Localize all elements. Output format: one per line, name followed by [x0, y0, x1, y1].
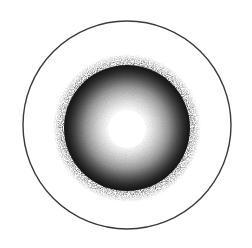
disk-core-highlight [108, 110, 146, 148]
circular-diagram-svg [0, 0, 252, 248]
figure-canvas [0, 0, 252, 248]
